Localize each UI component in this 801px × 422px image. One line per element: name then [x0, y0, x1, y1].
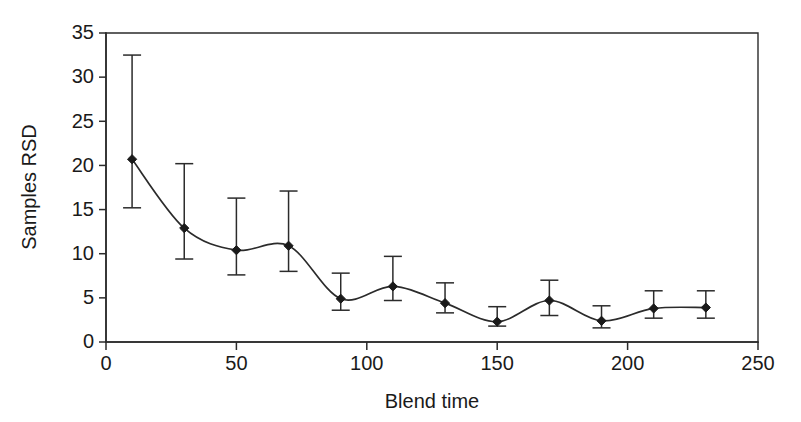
y-tick-label: 20 [72, 154, 94, 176]
data-point-marker [388, 282, 397, 291]
data-point-marker [336, 294, 345, 303]
x-tick-label: 150 [481, 352, 514, 374]
x-tick-label: 200 [611, 352, 644, 374]
error-bar [227, 198, 245, 275]
x-axis-ticks: 050100150200250 [100, 342, 774, 374]
data-point-marker [493, 317, 502, 326]
series-line [132, 159, 706, 321]
plot-frame [106, 33, 758, 342]
error-bars [123, 55, 715, 328]
error-bar [384, 256, 402, 300]
line-chart-canvas: 05101520253035 050100150200250 Samples R… [0, 0, 801, 422]
y-tick-label: 10 [72, 242, 94, 264]
error-bar [175, 164, 193, 259]
error-bar [280, 191, 298, 271]
y-tick-label: 0 [83, 330, 94, 352]
y-tick-label: 35 [72, 21, 94, 43]
x-tick-label: 50 [225, 352, 247, 374]
data-point-markers [127, 155, 710, 327]
chart-figure: 05101520253035 050100150200250 Samples R… [0, 0, 801, 422]
error-bar [332, 273, 350, 310]
series-line-path [132, 159, 706, 321]
y-axis-ticks: 05101520253035 [72, 21, 106, 352]
data-point-marker [284, 241, 293, 250]
data-point-marker [597, 316, 606, 325]
data-point-marker [701, 303, 710, 312]
x-tick-label: 100 [350, 352, 383, 374]
data-point-marker [545, 296, 554, 305]
y-tick-label: 5 [83, 286, 94, 308]
data-point-marker [649, 304, 658, 313]
x-tick-label: 250 [741, 352, 774, 374]
data-point-marker [440, 299, 449, 308]
data-point-marker [232, 246, 241, 255]
y-axis-title: Samples RSD [18, 124, 40, 250]
plot-box [106, 33, 758, 342]
y-tick-label: 25 [72, 110, 94, 132]
x-axis-title: Blend time [385, 390, 480, 412]
y-tick-label: 15 [72, 198, 94, 220]
x-tick-label: 0 [100, 352, 111, 374]
error-bar [123, 55, 141, 208]
y-tick-label: 30 [72, 65, 94, 87]
